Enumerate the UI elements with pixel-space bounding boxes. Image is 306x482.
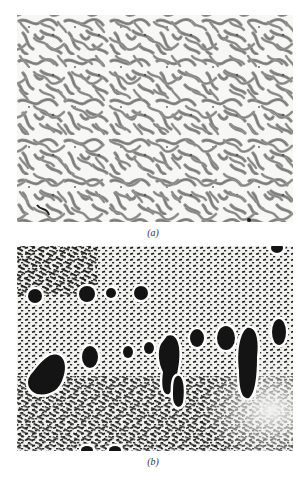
eutectic-structure-graphic — [17, 246, 293, 451]
network-structure-graphic — [17, 15, 293, 222]
micrograph-b — [17, 246, 293, 451]
micrograph-a — [17, 15, 293, 222]
figure-caption-cutoff — [20, 476, 290, 482]
panel-b-label: (b) — [0, 456, 306, 467]
panel-a-label: (a) — [0, 227, 306, 238]
